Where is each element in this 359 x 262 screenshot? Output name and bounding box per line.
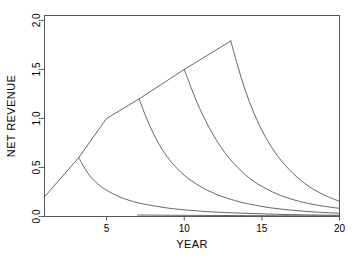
net-revenue-line-chart: 0.00.51.01.52.0 5101520 YEAR NET REVENUE <box>0 0 359 262</box>
x-tick-label: 10 <box>179 223 191 234</box>
y-tick-label: 0.5 <box>31 160 42 174</box>
chart-figure: 0.00.51.01.52.0 5101520 YEAR NET REVENUE <box>0 0 359 262</box>
y-tick-label: 1.5 <box>31 62 42 76</box>
x-tick-label: 15 <box>256 223 268 234</box>
y-axis-title: NET REVENUE <box>5 75 17 157</box>
x-axis-title: YEAR <box>176 238 208 250</box>
y-tick-label: 1.0 <box>31 111 42 125</box>
x-tick-label: 20 <box>334 223 346 234</box>
y-tick-label: 0.0 <box>31 209 42 223</box>
y-tick-label: 2.0 <box>31 13 42 27</box>
x-tick-label: 5 <box>104 223 110 234</box>
